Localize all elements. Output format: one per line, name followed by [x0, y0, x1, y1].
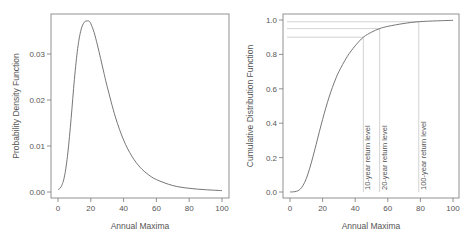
- x-tick-label: 100: [446, 204, 460, 213]
- x-tick-label: 60: [152, 204, 161, 213]
- y-tick-label: 0.03: [29, 50, 45, 59]
- pdf-y-axis: 0.000.010.020.03: [29, 50, 51, 197]
- y-tick-label: 0.02: [29, 96, 45, 105]
- return-level-guides: [287, 22, 419, 192]
- x-tick-label: 0: [56, 204, 61, 213]
- x-tick-label: 20: [86, 204, 95, 213]
- pdf-curve: [58, 21, 222, 191]
- x-tick-label: 100: [215, 204, 229, 213]
- y-tick-label: 0.4: [266, 119, 278, 128]
- figure: 0.000.010.020.03 020406080100 Annual Max…: [0, 0, 471, 237]
- pdf-chart-panel: 0.000.010.020.03 020406080100 Annual Max…: [11, 14, 229, 231]
- return-level-label: 100-year return level: [419, 121, 428, 190]
- y-tick-label: 0.2: [266, 154, 278, 163]
- y-tick-label: 0.8: [266, 50, 278, 59]
- x-tick-label: 20: [318, 204, 327, 213]
- cdf-chart-panel: 0.00.20.40.60.81.0 020406080100 10-year …: [245, 14, 460, 231]
- y-tick-label: 0.0: [266, 188, 278, 197]
- pdf-x-axis-label: Annual Maxima: [111, 221, 170, 231]
- x-tick-label: 80: [185, 204, 194, 213]
- cdf-x-axis: 020406080100: [288, 198, 460, 213]
- x-tick-label: 40: [119, 204, 128, 213]
- cdf-y-axis-label: Cumulative Distribution Function: [245, 45, 255, 168]
- cdf-y-axis: 0.00.20.40.60.81.0: [266, 16, 283, 197]
- pdf-plot-frame: [51, 14, 229, 198]
- pdf-y-axis-label: Probability Density Function: [11, 53, 21, 159]
- y-tick-label: 0.6: [266, 85, 278, 94]
- return-level-label: 20-year return level: [380, 125, 389, 190]
- pdf-x-axis: 020406080100: [56, 198, 229, 213]
- y-tick-label: 0.01: [29, 142, 45, 151]
- y-tick-label: 1.0: [266, 16, 278, 25]
- return-level-label: 10-year return level: [363, 125, 372, 190]
- cdf-x-axis-label: Annual Maxima: [342, 221, 401, 231]
- x-tick-label: 40: [351, 204, 360, 213]
- x-tick-label: 0: [288, 204, 293, 213]
- x-tick-label: 60: [383, 204, 392, 213]
- return-level-annotations: 10-year return level20-year return level…: [363, 121, 427, 190]
- x-tick-label: 80: [416, 204, 425, 213]
- y-tick-label: 0.00: [29, 188, 45, 197]
